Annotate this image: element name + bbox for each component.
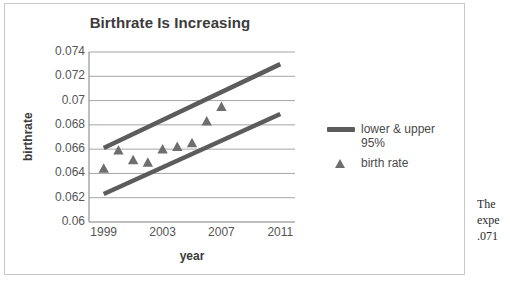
chart-legend: lower & upper 95%birth rate <box>327 122 457 176</box>
body-text-line-2: expe <box>477 212 510 228</box>
legend-item[interactable]: birth rate <box>327 156 457 170</box>
x-axis-tick-label: 2007 <box>191 225 251 239</box>
legend-item[interactable]: lower & upper 95% <box>327 122 457 150</box>
plot-svg <box>89 52 295 222</box>
y-axis-tick-label: 0.068 <box>33 117 85 131</box>
y-axis-tick-label: 0.064 <box>33 165 85 179</box>
data-point-marker <box>216 101 226 110</box>
y-axis-tick-label: 0.074 <box>33 44 85 58</box>
data-point-marker <box>99 163 109 172</box>
plot-area <box>89 52 295 222</box>
y-axis-tick-label: 0.066 <box>33 141 85 155</box>
chart-object-frame[interactable]: Birthrate Is Increasing birthrate 0.060.… <box>4 3 465 275</box>
data-point-marker <box>143 157 153 166</box>
data-point-marker <box>128 155 138 164</box>
body-text-clipped: The expe .071 <box>477 196 510 244</box>
body-text-line-1: The <box>477 196 510 212</box>
y-axis-tick-labels: 0.060.0620.0640.0660.0680.070.0720.074 <box>31 52 85 222</box>
data-point-marker <box>202 116 212 125</box>
legend-line-swatch-icon <box>327 127 355 132</box>
x-axis-title: year <box>89 249 295 263</box>
chart-title: Birthrate Is Increasing <box>5 14 335 31</box>
document-page: Birthrate Is Increasing birthrate 0.060.… <box>0 0 510 283</box>
x-axis-tick-label: 2011 <box>250 225 310 239</box>
data-point-marker <box>187 138 197 147</box>
legend-item-label: birth rate <box>361 156 408 170</box>
x-axis-tick-labels: 1999200320072011 <box>89 225 295 245</box>
y-axis-tick-label: 0.07 <box>33 93 85 107</box>
body-text-line-3: .071 <box>477 228 510 244</box>
data-point-marker <box>172 142 182 151</box>
legend-item-label: lower & upper 95% <box>361 122 435 150</box>
data-point-marker <box>113 145 123 154</box>
y-axis-tick-label: 0.072 <box>33 68 85 82</box>
x-axis-tick-label: 1999 <box>74 225 134 239</box>
y-axis-tick-label: 0.062 <box>33 190 85 204</box>
legend-triangle-swatch-icon <box>335 159 345 168</box>
x-axis-tick-label: 2003 <box>133 225 193 239</box>
trend-line-lower-95- <box>104 114 281 194</box>
